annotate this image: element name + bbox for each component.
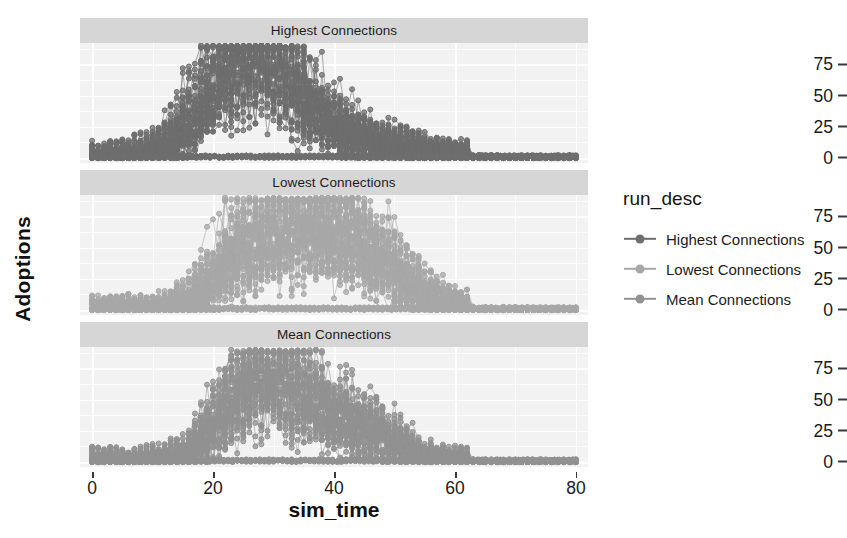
y-tick-label: 75 [771, 54, 847, 75]
facet-panel-mean-connections: Mean Connections [80, 322, 588, 467]
plot-panel-2 [80, 347, 588, 467]
y-axis-title-text: Adoptions [11, 216, 35, 322]
facet-panel-lowest-connections: Lowest Connections [80, 170, 588, 315]
legend-item-mean-connections[interactable]: Mean Connections [623, 284, 838, 314]
facet-strip-label-1: Lowest Connections [272, 175, 395, 190]
x-tick-label: 40 [324, 478, 343, 499]
legend-key-icon-0 [623, 224, 657, 254]
series-points-2 [80, 347, 588, 467]
legend-label-2: Mean Connections [666, 291, 791, 308]
y-tick-label: 0 [771, 148, 847, 169]
y-tick-label: 50 [771, 85, 847, 106]
y-tick-label: 50 [771, 389, 847, 410]
legend-item-highest-connections[interactable]: Highest Connections [623, 224, 838, 254]
legend-label-0: Highest Connections [666, 231, 804, 248]
x-tick-label: 0 [87, 478, 97, 499]
facet-strip-label-2: Mean Connections [277, 327, 391, 342]
facet-strip-2: Mean Connections [80, 322, 588, 347]
y-tick-label: 0 [771, 452, 847, 473]
legend: run_desc Highest Connections Lowest Conn… [623, 188, 838, 314]
y-tick-label: 25 [771, 116, 847, 137]
facet-panel-highest-connections: Highest Connections [80, 18, 588, 163]
facet-strip-1: Lowest Connections [80, 170, 588, 195]
legend-key-icon-1 [623, 254, 657, 284]
series-points-1 [80, 195, 588, 315]
y-tick-label: 25 [771, 420, 847, 441]
legend-title: run_desc [623, 188, 838, 210]
x-tick-label: 20 [203, 478, 222, 499]
y-axis-title: Adoptions [6, 0, 40, 538]
series-points-0 [80, 43, 588, 163]
plot-panel-1 [80, 195, 588, 315]
facet-strip-label-0: Highest Connections [271, 23, 397, 38]
x-tick-label: 60 [445, 478, 464, 499]
legend-label-1: Lowest Connections [666, 261, 801, 278]
y-tick-label: 75 [771, 358, 847, 379]
legend-key-icon-2 [623, 284, 657, 314]
chart-root: Adoptions 025507502550750255075 Highest … [0, 0, 847, 538]
x-tick-label: 80 [566, 478, 585, 499]
plot-panel-0 [80, 43, 588, 163]
x-axis-title: sim_time [80, 498, 588, 522]
legend-item-lowest-connections[interactable]: Lowest Connections [623, 254, 838, 284]
facet-strip-0: Highest Connections [80, 18, 588, 43]
